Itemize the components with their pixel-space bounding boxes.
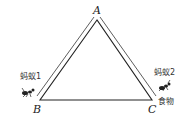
- vertex-a-label: A: [93, 4, 101, 17]
- path-ab-outer: [37, 17, 94, 96]
- ant2-label: 蚂蚁2: [154, 66, 175, 77]
- triangle-abc: [40, 20, 152, 100]
- food-label: 食物: [158, 95, 174, 106]
- path-ac-outer: [100, 17, 156, 96]
- ant1-label: 蚂蚁1: [20, 70, 41, 81]
- ant-icon: [159, 80, 171, 91]
- vertex-c-label: C: [148, 103, 156, 116]
- triangle-diagram: [0, 0, 188, 126]
- vertex-b-label: B: [33, 103, 41, 116]
- ant-icon: [22, 88, 35, 97]
